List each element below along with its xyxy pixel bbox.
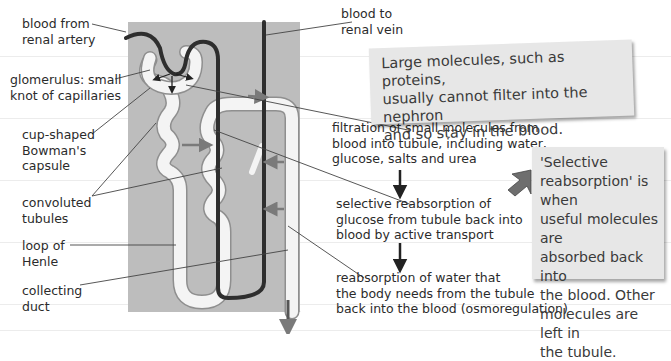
label-line: tubules: [22, 211, 91, 227]
note-selective-reabsorption: 'Selective reabsorption' is when useful …: [532, 147, 664, 279]
label-line: blood from: [22, 16, 96, 32]
label-line: renal artery: [22, 32, 96, 48]
label-line: cup-shaped: [22, 127, 95, 143]
label-line: glomerulus: small: [10, 72, 121, 88]
label-line: capsule: [22, 158, 95, 174]
step-line: selective reabsorption of: [336, 196, 523, 212]
label-line: duct: [22, 299, 82, 315]
label-convoluted-tubules: convoluted tubules: [22, 195, 91, 226]
label-line: knot of capillaries: [10, 88, 121, 104]
label-line: collecting: [22, 283, 82, 299]
note-line: reabsorption' is when: [540, 172, 658, 210]
pointer-arrow-icon: [508, 170, 531, 196]
note-line: useful molecules are: [540, 210, 658, 248]
label-renal-vein: blood to renal vein: [341, 6, 403, 37]
step-line: blood by active transport: [336, 227, 523, 243]
step-line: back into the blood (osmoregulation): [336, 301, 568, 317]
label-collecting-duct: collecting duct: [22, 283, 82, 314]
label-glomerulus: glomerulus: small knot of capillaries: [10, 72, 121, 103]
label-line: renal vein: [341, 22, 403, 38]
note-line: molecules are left in: [540, 305, 658, 343]
note-line: the blood. Other: [540, 286, 658, 305]
label-renal-artery: blood from renal artery: [22, 16, 96, 47]
step-line: glucose, salts and urea: [332, 151, 547, 167]
note-line: the tubule.: [540, 343, 658, 361]
step-line: the body needs from the tubule: [336, 286, 568, 302]
label-loop-of-henle: loop of Henle: [22, 238, 65, 269]
label-line: Henle: [22, 254, 65, 270]
label-line: convoluted: [22, 195, 91, 211]
label-line: blood to: [341, 6, 403, 22]
label-line: loop of: [22, 238, 65, 254]
note-line: 'Selective: [540, 153, 658, 172]
label-line: Bowman's: [22, 143, 95, 159]
step-selective-reabsorption: selective reabsorption of glucose from t…: [336, 196, 523, 243]
label-bowmans-capsule: cup-shaped Bowman's capsule: [22, 127, 95, 174]
note-line: absorbed back into: [540, 248, 658, 286]
step-line: glucose from tubule back into: [336, 212, 523, 228]
note-large-molecules: Large molecules, such as proteins, usual…: [369, 39, 634, 124]
